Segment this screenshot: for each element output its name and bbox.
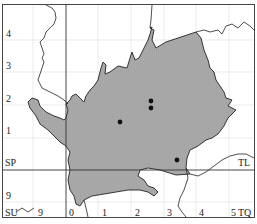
square-label-tl: TL	[238, 158, 250, 168]
x-label-1: 1	[102, 208, 107, 218]
record-dot	[175, 158, 180, 163]
x-label-9: 9	[38, 208, 43, 218]
record-dot	[149, 106, 154, 111]
y-label-1: 1	[6, 126, 11, 136]
record-dot	[149, 99, 154, 104]
distribution-map	[0, 0, 257, 224]
square-label-tq: TQ	[238, 208, 251, 218]
square-label-sp: SP	[5, 158, 16, 168]
shaded-region	[28, 27, 236, 206]
y-label-9: 9	[6, 191, 11, 201]
y-label-3: 3	[6, 61, 11, 71]
x-label-5: 5	[231, 208, 236, 218]
y-label-2: 2	[6, 94, 11, 104]
y-label-4: 4	[6, 29, 11, 39]
x-label-0: 0	[69, 208, 74, 218]
x-label-3: 3	[167, 208, 172, 218]
x-label-4: 4	[199, 208, 204, 218]
record-dot	[118, 120, 123, 125]
square-label-su: SU	[5, 208, 18, 218]
x-label-2: 2	[135, 208, 140, 218]
